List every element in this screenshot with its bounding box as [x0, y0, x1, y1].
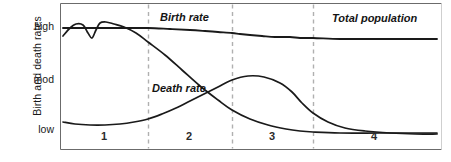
stage-label-3: 3 — [262, 130, 282, 142]
stage-label-2: 2 — [179, 130, 199, 142]
stage-divider-lines — [149, 5, 314, 149]
population-transition-chart: Birth and death rates high mod low 1 2 3… — [0, 0, 451, 162]
curve-death-rate — [63, 76, 437, 134]
total-population-annotation: Total population — [332, 12, 417, 24]
death-rate-annotation: Death rate — [152, 82, 206, 94]
stage-label-1: 1 — [94, 130, 114, 142]
curve-total-population — [63, 28, 437, 39]
stage-label-4: 4 — [364, 130, 384, 142]
curve-group — [63, 22, 437, 134]
birth-rate-annotation: Birth rate — [160, 11, 209, 23]
